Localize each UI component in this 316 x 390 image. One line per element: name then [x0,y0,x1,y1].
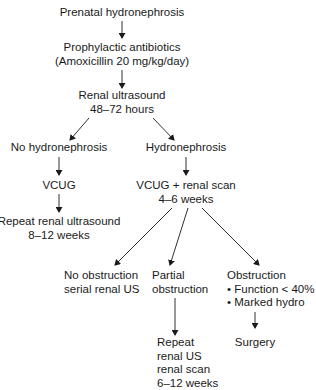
node-partial-obstruction: Partial obstruction [152,269,208,296]
node-text: 8–12 weeks [0,229,120,243]
node-text: renal US [157,350,218,364]
arrow-vcug-scan-to-obstruction [202,208,259,265]
node-repeat-renal-scan: Repeat renal US renal scan 6–12 weeks [157,336,218,390]
node-text: VCUG + renal scan [136,179,235,193]
node-vcug: VCUG [42,179,75,193]
node-text: No obstruction [64,269,139,283]
node-text: serial renal US [64,283,139,297]
node-prenatal-hydronephrosis: Prenatal hydronephrosis [60,6,185,20]
node-vcug-renal-scan: VCUG + renal scan 4–6 weeks [136,179,235,206]
node-text: 6–12 weeks [157,377,218,390]
node-text: Surgery [235,336,275,350]
node-text: 48–72 hours [79,103,166,117]
arrow-ultrasound-to-hydro [153,118,174,140]
arrow-vcug-scan-to-partial [170,208,188,265]
node-text: Repeat renal ultrasound [0,215,120,229]
node-renal-ultrasound: Renal ultrasound 48–72 hours [79,89,166,116]
node-text: Prenatal hydronephrosis [60,6,185,20]
node-text: Obstruction [227,269,314,283]
arrow-ultrasound-to-no-hydro [70,118,89,140]
node-text: (Amoxicillin 20 mg/kg/day) [55,55,189,69]
node-text: • Function < 40% [227,283,314,297]
node-repeat-renal-ultrasound: Repeat renal ultrasound 8–12 weeks [0,215,120,242]
node-text: obstruction [152,283,208,297]
node-text: • Marked hydro [227,296,314,310]
arrow-vcug-scan-to-no-obstruction [115,208,172,265]
node-no-obstruction: No obstruction serial renal US [64,269,139,296]
node-surgery: Surgery [235,336,275,350]
node-text: VCUG [42,179,75,193]
node-prophylactic-antibiotics: Prophylactic antibiotics (Amoxicillin 20… [55,41,189,68]
node-text: Partial [152,269,208,283]
node-text: Hydronephrosis [146,141,227,155]
node-text: Repeat [157,336,218,350]
node-hydronephrosis: Hydronephrosis [146,141,227,155]
node-text: 4–6 weeks [136,193,235,207]
node-text: renal scan [157,363,218,377]
node-text: No hydronephrosis [11,141,108,155]
node-obstruction: Obstruction • Function < 40% • Marked hy… [227,269,314,310]
node-no-hydronephrosis: No hydronephrosis [11,141,108,155]
node-text: Prophylactic antibiotics [55,41,189,55]
node-text: Renal ultrasound [79,89,166,103]
